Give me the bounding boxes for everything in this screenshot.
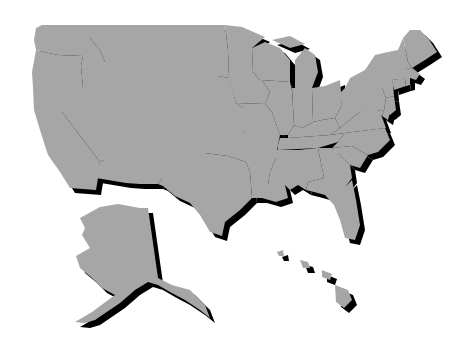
us-states-map bbox=[0, 0, 460, 343]
map-land bbox=[32, 25, 437, 323]
